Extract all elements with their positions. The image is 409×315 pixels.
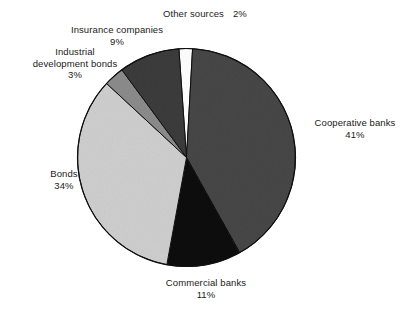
slice-label-other-sources: Other sources2% [163,8,247,20]
slice-label-commercial-banks-pct: 11% [141,289,271,301]
slice-label-commercial-banks: Commercial banks 11% [141,277,271,300]
slice-label-bonds-pct: 34% [32,180,96,192]
slice-label-bonds: Bonds 34% [32,168,96,191]
slice-label-commercial-banks-name: Commercial banks [141,277,271,289]
chart-area: Other sources2% Insurance companies 9% I… [0,0,409,315]
slice-label-cooperative-banks-name: Cooperative banks [303,117,407,129]
slice-label-cooperative-banks: Cooperative banks 41% [303,117,407,140]
slice-label-industrial-development-bonds: Industrial development bonds 3% [20,46,130,81]
slice-label-industrial-development-bonds-pct: 3% [20,69,130,81]
slice-label-insurance-companies: Insurance companies 9% [62,24,172,47]
slice-label-cooperative-banks-pct: 41% [303,129,407,141]
pie-chart-page: Other sources2% Insurance companies 9% I… [0,0,409,315]
slice-label-other-sources-name: Other sources [163,8,224,20]
slice-label-industrial-development-bonds-name-line1: Industrial [20,46,130,58]
slice-label-other-sources-pct: 2% [233,8,247,20]
slice-label-insurance-companies-name: Insurance companies [71,24,163,36]
slice-label-bonds-name: Bonds [32,168,96,180]
slice-label-industrial-development-bonds-name-line2: development bonds [20,58,130,70]
